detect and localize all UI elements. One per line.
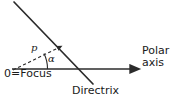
focus-directrix-diagram: 0=Focus p α Directrix Polar axis xyxy=(0,0,181,103)
p-label: p xyxy=(31,43,37,54)
polar-axis-label-line2: axis xyxy=(142,57,169,69)
focus-label: 0=Focus xyxy=(4,68,52,80)
alpha-label: α xyxy=(48,54,55,65)
polar-axis-label: Polar axis xyxy=(142,45,169,68)
directrix-label: Directrix xyxy=(72,85,119,97)
polar-axis-label-line1: Polar xyxy=(142,45,169,57)
